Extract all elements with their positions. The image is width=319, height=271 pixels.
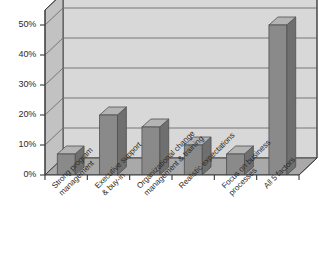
bar-side-face xyxy=(287,17,296,175)
y-axis-tick-label: 30% xyxy=(6,79,36,89)
chart-left-wall xyxy=(45,0,63,175)
y-axis-tick-label: 20% xyxy=(6,109,36,119)
y-axis-tick-label: 10% xyxy=(6,139,36,149)
y-axis-tick-label: 0% xyxy=(6,169,36,179)
chart-screenshot: 50%40%30%20%10%0% Strong programmanageme… xyxy=(0,0,319,271)
bar-chart-3d xyxy=(0,0,319,271)
y-axis-tick-label: 40% xyxy=(6,49,36,59)
y-axis-tick-label: 50% xyxy=(6,19,36,29)
